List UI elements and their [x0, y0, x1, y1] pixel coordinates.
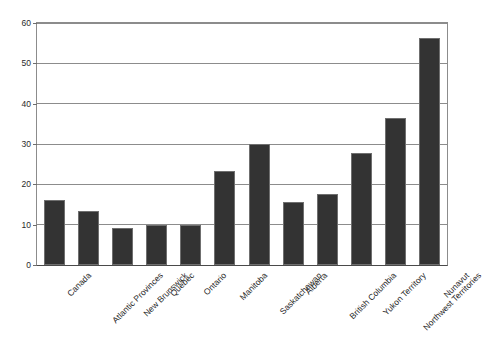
- bar: [112, 228, 133, 266]
- x-axis-label-text: Canada: [66, 271, 93, 298]
- bar: [351, 153, 372, 265]
- bar: [385, 118, 406, 265]
- bar: [180, 225, 201, 265]
- y-axis-tick-label: 60: [22, 19, 31, 28]
- x-axis-label-text: Northwest Territories: [422, 271, 483, 332]
- x-axis-label-text: Ontario: [202, 271, 228, 297]
- x-axis-label-text: Alberta: [304, 271, 329, 296]
- x-axis-label-text: Manitoba: [238, 271, 269, 302]
- bar: [249, 144, 270, 265]
- bar: [317, 194, 338, 265]
- y-axis-tick-label: 10: [22, 220, 31, 229]
- x-axis-label: Canada: [66, 271, 93, 298]
- y-axis-tick-label: 20: [22, 180, 31, 189]
- y-axis-tick-mark: [33, 104, 37, 105]
- y-axis-tick-mark: [33, 225, 37, 226]
- bar: [419, 38, 440, 265]
- y-axis-tick-mark: [33, 144, 37, 145]
- y-axis-tick-mark: [33, 63, 37, 64]
- y-axis-tick-mark: [33, 265, 37, 266]
- gridline: [37, 63, 447, 64]
- x-axis-label: Manitoba: [238, 271, 269, 302]
- bar: [78, 211, 99, 265]
- x-axis-label: Alberta: [304, 271, 329, 296]
- y-axis-tick-mark: [33, 23, 37, 24]
- x-axis-label: Northwest Territories: [422, 271, 483, 332]
- y-axis-tick-mark: [33, 184, 37, 185]
- y-axis-tick-label: 0: [26, 261, 31, 270]
- gridline: [37, 23, 447, 24]
- plot-area: 0102030405060: [36, 22, 448, 266]
- bar: [44, 200, 65, 265]
- y-axis-tick-label: 40: [22, 99, 31, 108]
- bar: [214, 171, 235, 265]
- x-axis-label: Ontario: [202, 271, 228, 297]
- bar: [283, 202, 304, 265]
- y-axis-tick-label: 30: [22, 140, 31, 149]
- y-axis-tick-label: 50: [22, 59, 31, 68]
- gridline: [37, 103, 447, 104]
- bar: [146, 225, 167, 265]
